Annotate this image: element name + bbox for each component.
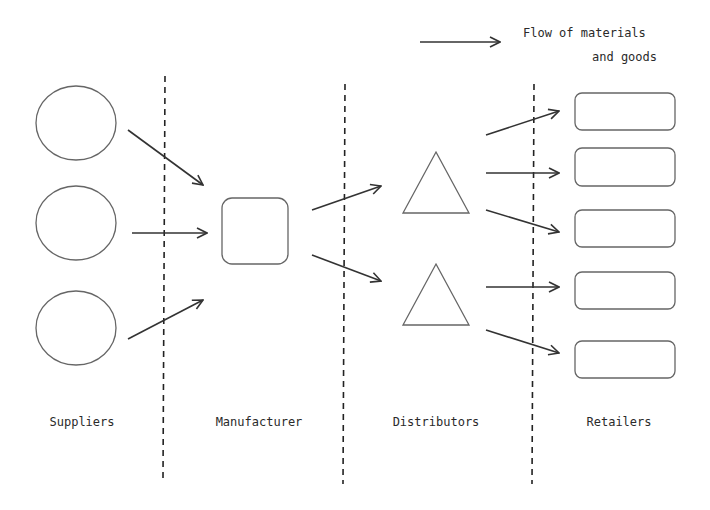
distributor-triangle	[403, 264, 469, 325]
stage-label-suppliers: Suppliers	[49, 415, 114, 429]
manufacturer-box	[222, 198, 288, 264]
flow-arrow	[312, 255, 381, 281]
flow-arrow	[486, 111, 559, 135]
retailers-group	[575, 93, 675, 378]
separator-1	[163, 76, 165, 478]
legend-text-line2: and goods	[592, 50, 657, 64]
retailer-box	[575, 272, 675, 309]
distributor-triangle	[403, 152, 469, 213]
retailer-box	[575, 148, 675, 186]
flow-arrow	[128, 130, 203, 185]
stage-label-manufacturer: Manufacturer	[216, 415, 303, 429]
legend-text-line1: Flow of materials	[523, 26, 646, 40]
stage-label-retailers: Retailers	[586, 415, 651, 429]
suppliers-group	[36, 86, 116, 365]
stage-label-distributors: Distributors	[393, 415, 480, 429]
supplier-circle	[36, 291, 116, 365]
stage-labels: Suppliers Manufacturer Distributors Reta…	[49, 415, 651, 429]
supply-chain-diagram: Flow of materials and goods	[0, 0, 710, 510]
flow-arrow	[128, 300, 203, 339]
separator-3	[532, 84, 534, 484]
retailer-box	[575, 93, 675, 130]
supplier-circle	[36, 86, 116, 160]
flow-arrow	[486, 330, 559, 353]
supplier-circle	[36, 186, 116, 260]
retailer-box	[575, 341, 675, 378]
flow-arrow	[486, 210, 559, 232]
separator-2	[343, 84, 345, 484]
flow-arrow	[312, 186, 381, 210]
retailer-box	[575, 210, 675, 247]
legend: Flow of materials and goods	[420, 26, 657, 64]
distributors-group	[403, 152, 469, 325]
